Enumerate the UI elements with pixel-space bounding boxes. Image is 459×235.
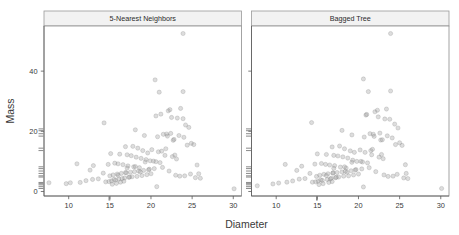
data-point [351, 173, 355, 177]
data-point [367, 166, 371, 170]
data-point [393, 142, 397, 146]
data-point [360, 167, 364, 171]
data-point [315, 152, 319, 156]
data-point [332, 166, 336, 170]
x-tick-label-1-1: 15 [106, 201, 114, 210]
x-tick-label-1-2: 20 [147, 201, 155, 210]
data-point [111, 173, 115, 177]
data-point [349, 169, 353, 173]
scatter-plot-figure: 5-Nearest Neighbors101520253002040Bagged… [0, 0, 459, 235]
data-point [300, 164, 304, 168]
data-point [323, 162, 327, 166]
data-point [163, 153, 167, 157]
data-point [324, 152, 328, 156]
data-point [96, 177, 100, 181]
data-point [195, 163, 199, 167]
x-tick-label-2-4: 30 [437, 201, 445, 210]
data-point [138, 170, 142, 174]
data-point [161, 132, 165, 136]
data-point [107, 179, 111, 183]
data-point [255, 184, 259, 188]
data-point [350, 160, 354, 164]
data-point [396, 126, 400, 130]
data-point [277, 181, 281, 185]
data-point [164, 147, 168, 151]
data-point [366, 89, 370, 93]
data-point [386, 174, 390, 178]
data-point [352, 150, 356, 154]
data-point [169, 115, 173, 119]
data-point [154, 114, 158, 118]
data-point [355, 159, 359, 163]
data-point [334, 175, 338, 179]
faceted-scatter-plot: 5-Nearest Neighbors101520253002040Bagged… [0, 0, 459, 235]
y-tick-label-2: 40 [29, 67, 37, 76]
data-point [131, 144, 135, 148]
data-point [139, 156, 143, 160]
data-point [171, 138, 175, 142]
data-point [160, 165, 164, 169]
data-point [142, 133, 146, 137]
data-point [370, 153, 374, 157]
data-point [353, 168, 357, 172]
panel-2: Bagged Tree1015202530 [246, 11, 449, 210]
data-point [174, 157, 178, 161]
x-axis-title: Diameter [225, 218, 268, 230]
data-point [141, 148, 145, 152]
data-point [78, 180, 82, 184]
data-point [388, 89, 392, 93]
data-point [116, 173, 120, 177]
data-point [363, 150, 367, 154]
data-point [181, 89, 185, 93]
data-point [330, 145, 334, 149]
panel-title-2: Bagged Tree [330, 14, 371, 23]
data-point [136, 146, 140, 150]
data-point [192, 142, 196, 146]
data-point [133, 128, 137, 132]
data-point [68, 181, 72, 185]
data-point [187, 125, 191, 129]
data-point [376, 115, 380, 119]
data-point [337, 144, 341, 148]
data-point [319, 161, 323, 165]
data-point [395, 172, 399, 176]
data-point [365, 112, 369, 116]
data-point [358, 148, 362, 152]
data-point [75, 162, 79, 166]
data-point [345, 170, 349, 174]
data-point [157, 90, 161, 94]
data-point [406, 176, 410, 180]
data-point [390, 136, 394, 140]
data-point [123, 170, 127, 174]
data-point [168, 108, 172, 112]
data-point [318, 173, 322, 177]
data-point [64, 182, 68, 186]
x-tick-label-1-0: 10 [65, 201, 73, 210]
data-point [382, 173, 386, 177]
data-point [175, 116, 179, 120]
data-point [197, 172, 201, 176]
data-point [114, 181, 118, 185]
data-point [348, 149, 352, 153]
data-point [155, 135, 159, 139]
data-point [297, 177, 301, 181]
data-point [321, 182, 325, 186]
data-point [232, 187, 236, 191]
data-point [155, 185, 159, 189]
data-point [303, 176, 307, 180]
data-point [332, 153, 336, 157]
data-point [101, 171, 105, 175]
data-point [324, 173, 328, 177]
data-point [132, 170, 136, 174]
data-point [122, 179, 126, 183]
data-point [338, 165, 342, 169]
data-point [388, 31, 392, 35]
data-point [90, 177, 94, 181]
data-point [346, 156, 350, 160]
data-point [185, 143, 189, 147]
data-point [91, 164, 95, 168]
data-point [291, 179, 295, 183]
data-point [109, 151, 113, 155]
y-tick-label-0: 0 [33, 187, 37, 196]
data-point [379, 152, 383, 156]
